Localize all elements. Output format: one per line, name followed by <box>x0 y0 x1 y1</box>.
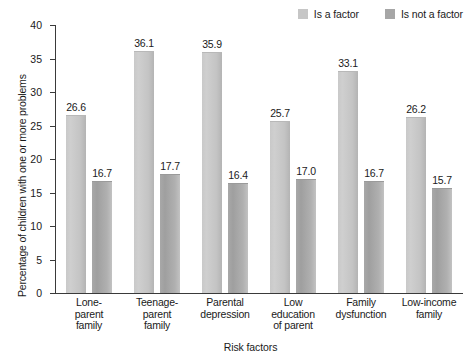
y-axis-tick-label: 30 <box>30 86 42 98</box>
category-label-line: family <box>123 320 191 332</box>
bar: 16.4 <box>228 183 248 293</box>
bar: 16.7 <box>92 181 112 293</box>
chart-legend: Is a factor Is not a factor <box>0 6 473 22</box>
bar-chart: Is a factor Is not a factor Percentage o… <box>0 0 473 359</box>
category-label-line: Low-income <box>395 297 463 309</box>
y-axis-tick-label: 0 <box>36 287 42 299</box>
category-label-line: Low <box>259 297 327 309</box>
y-axis-tick: 0 <box>50 293 55 294</box>
x-axis-category-label: Parentaldepression <box>191 297 259 320</box>
legend-item-is-a-factor: Is a factor <box>298 8 359 20</box>
category-label-line: Lone- <box>55 297 123 309</box>
category-label-line: dysfunction <box>327 309 395 321</box>
category-label-line: Teenage- <box>123 297 191 309</box>
category-label-line: Family <box>327 297 395 309</box>
bar-value-label: 36.1 <box>134 37 154 49</box>
bar: 16.7 <box>364 181 384 293</box>
category-label-line: Parental <box>191 297 259 309</box>
bar-value-label: 17.0 <box>296 165 316 177</box>
bar-value-label: 33.1 <box>338 57 358 69</box>
legend-swatch-is-not-a-factor <box>385 9 395 19</box>
bar: 36.1 <box>134 51 154 293</box>
bar-value-label: 26.2 <box>406 103 426 115</box>
y-axis-tick-label: 40 <box>30 19 42 31</box>
bar-value-label: 16.4 <box>228 169 248 181</box>
bar-value-label: 16.7 <box>92 167 112 179</box>
y-axis-title: Percentage of children with one or more … <box>16 17 30 297</box>
y-axis-tick-label: 10 <box>30 220 42 232</box>
y-axis-tick-label: 25 <box>30 120 42 132</box>
bars-layer: 26.616.736.117.735.916.425.717.033.116.7… <box>55 25 463 293</box>
bar: 26.2 <box>406 117 426 293</box>
category-label-line: family <box>55 320 123 332</box>
y-axis-tick-label: 15 <box>30 187 42 199</box>
bar: 17.7 <box>160 174 180 293</box>
bar-value-label: 17.7 <box>160 160 180 172</box>
bar: 35.9 <box>202 52 222 293</box>
y-axis-tick-label: 20 <box>30 153 42 165</box>
bar: 26.6 <box>66 115 86 293</box>
bar-value-label: 16.7 <box>364 167 384 179</box>
bar-value-label: 35.9 <box>202 38 222 50</box>
category-label-line: of parent <box>259 320 327 332</box>
bar-value-label: 26.6 <box>66 101 86 113</box>
y-axis-tick-label: 5 <box>36 254 42 266</box>
bar: 25.7 <box>270 121 290 293</box>
y-axis-tick-label: 35 <box>30 53 42 65</box>
bar-value-label: 25.7 <box>270 107 290 119</box>
legend-label-is-a-factor: Is a factor <box>314 8 359 20</box>
legend-label-is-not-a-factor: Is not a factor <box>401 8 463 20</box>
x-axis-category-labels: Lone-parentfamilyTeenage-parentfamilyPar… <box>55 297 463 343</box>
x-axis-category-label: Lone-parentfamily <box>55 297 123 332</box>
x-axis-category-label: Teenage-parentfamily <box>123 297 191 332</box>
x-axis-category-label: Loweducationof parent <box>259 297 327 332</box>
x-axis-category-label: Familydysfunction <box>327 297 395 320</box>
bar: 17.0 <box>296 179 316 293</box>
x-axis-title: Risk factors <box>0 341 473 353</box>
category-label-line: family <box>395 309 463 321</box>
bar-value-label: 15.7 <box>432 174 452 186</box>
bar: 15.7 <box>432 188 452 293</box>
legend-swatch-is-a-factor <box>298 9 308 19</box>
category-label-line: depression <box>191 309 259 321</box>
bar: 33.1 <box>338 71 358 293</box>
legend-item-is-not-a-factor: Is not a factor <box>385 8 463 20</box>
plot-area: 0510152025303540 26.616.736.117.735.916.… <box>55 25 463 293</box>
x-axis-category-label: Low-incomefamily <box>395 297 463 320</box>
x-axis-line <box>55 293 463 294</box>
